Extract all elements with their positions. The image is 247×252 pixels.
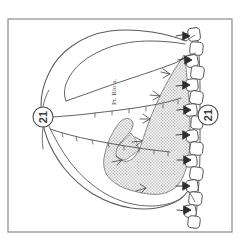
boulder-block	[189, 141, 203, 155]
figure-root: 21 21 Pt. Rio a.	[0, 0, 247, 252]
sketch-map-svg: 21 21 Pt. Rio a.	[0, 0, 247, 252]
section-marker-left-label: 21	[37, 111, 49, 123]
section-marker-left[interactable]: 21	[33, 107, 53, 127]
boulder-block	[187, 215, 200, 228]
handwritten-note: Pt. Rio a.	[110, 79, 118, 105]
section-marker-right[interactable]: 21	[198, 105, 218, 125]
boulder-block	[189, 166, 204, 181]
boulder-block	[189, 41, 203, 55]
boulder-block	[190, 65, 205, 80]
section-marker-right-label: 21	[202, 109, 214, 121]
boulder-block	[187, 27, 201, 42]
boulder-block	[189, 90, 204, 105]
